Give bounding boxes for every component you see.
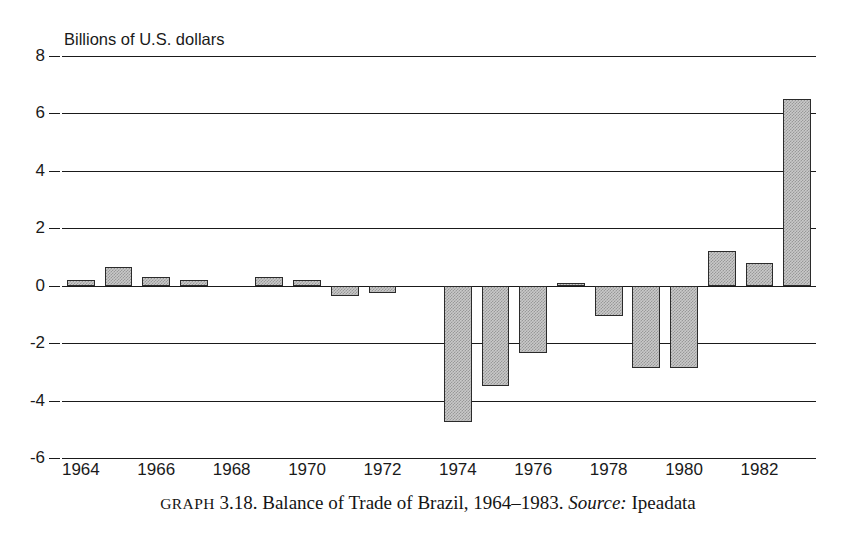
bar-1983 [783, 99, 811, 286]
y-tick-label: -2 [30, 333, 45, 353]
y-axis-title: Billions of U.S. dollars [64, 30, 224, 49]
y-tick-mark [49, 458, 60, 459]
bar-1969 [255, 277, 283, 286]
caption-number: 3.18. [220, 492, 258, 513]
bar-1966 [142, 277, 170, 286]
bar-1978 [595, 286, 623, 316]
y-tick-label: 2 [36, 218, 45, 238]
x-tick-label: 1972 [364, 460, 402, 480]
x-tick-label: 1982 [741, 460, 779, 480]
x-tick-label: 1970 [288, 460, 326, 480]
bar-1979 [632, 286, 660, 368]
x-tick-label: 1964 [62, 460, 100, 480]
bar-1981 [708, 251, 736, 285]
x-tick-label: 1978 [590, 460, 628, 480]
y-tick-mark [49, 113, 60, 114]
y-tick-mark [49, 56, 60, 57]
bar-1976 [519, 286, 547, 353]
y-tick-label: -6 [30, 448, 45, 468]
y-tick-label: 0 [36, 276, 45, 296]
plot-area: 86420-2-4-6 [62, 56, 816, 458]
bar-1970 [293, 280, 321, 286]
x-tick-label: 1968 [213, 460, 251, 480]
x-tick-label: 1966 [137, 460, 175, 480]
gridline-neg6 [62, 458, 816, 459]
bar-1972 [369, 286, 397, 293]
y-tick-label: 6 [36, 103, 45, 123]
y-tick-mark [49, 286, 60, 287]
y-tick-mark [49, 343, 60, 344]
bar-1975 [482, 286, 510, 387]
caption-source-label: Source: [568, 492, 626, 513]
y-tick-label: 8 [36, 46, 45, 66]
bar-series [62, 56, 816, 458]
bar-1971 [331, 286, 359, 296]
bar-1980 [670, 286, 698, 368]
caption-text: Balance of Trade of Brazil, 1964–1983. [262, 492, 563, 513]
y-tick-mark [49, 171, 60, 172]
y-tick-mark [49, 401, 60, 402]
bar-1974 [444, 286, 472, 422]
caption-label: GRAPH [160, 495, 215, 512]
x-tick-label: 1974 [439, 460, 477, 480]
bar-1982 [746, 263, 774, 286]
y-tick-label: 4 [36, 161, 45, 181]
x-axis-tick-labels: 1964196619681970197219741976197819801982 [62, 460, 816, 486]
bar-1964 [67, 280, 95, 286]
x-tick-label: 1980 [665, 460, 703, 480]
bar-1965 [105, 267, 133, 286]
figure-caption: GRAPH 3.18. Balance of Trade of Brazil, … [0, 492, 856, 514]
chart-figure: Billions of U.S. dollars 86420-2-4-6 196… [0, 0, 856, 546]
x-tick-label: 1976 [514, 460, 552, 480]
y-tick-label: -4 [30, 391, 45, 411]
bar-1977 [557, 283, 585, 286]
y-tick-mark [49, 228, 60, 229]
bar-1967 [180, 280, 208, 286]
caption-source-value: Ipeadata [631, 492, 695, 513]
